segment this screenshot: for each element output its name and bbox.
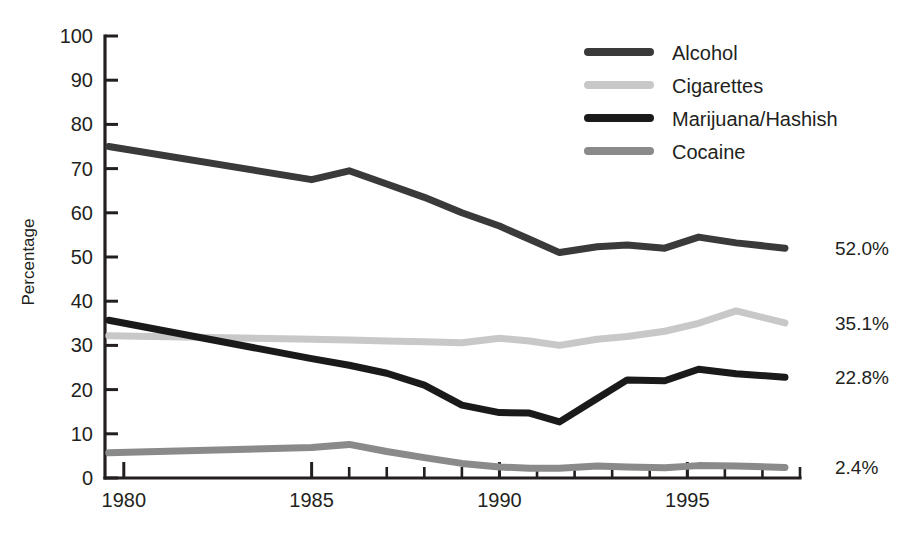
end-value-label: 22.8% (835, 367, 889, 388)
y-tick-label: 30 (71, 334, 93, 356)
end-value-label: 2.4% (835, 457, 878, 478)
legend-label: Marijuana/Hashish (672, 108, 838, 130)
x-tick-label: 1990 (477, 489, 522, 511)
y-tick-label: 40 (71, 290, 93, 312)
y-tick-label: 0 (82, 467, 93, 489)
y-axis-ticks: 0102030405060708090100 (60, 25, 118, 489)
series-lines (109, 147, 785, 469)
series-line-cocaine (109, 444, 785, 468)
y-tick-label: 50 (71, 246, 93, 268)
y-tick-label: 100 (60, 25, 93, 47)
y-axis-title: Percentage (19, 219, 38, 306)
y-tick-label: 70 (71, 158, 93, 180)
legend-label: Cigarettes (672, 75, 763, 97)
end-value-labels: 52.0%35.1%22.8%2.4% (835, 238, 889, 478)
chart-legend: AlcoholCigarettesMarijuana/HashishCocain… (588, 42, 838, 163)
x-tick-label: 1985 (289, 489, 334, 511)
legend-label: Cocaine (672, 141, 745, 163)
end-value-label: 52.0% (835, 238, 889, 259)
chart-canvas: Percentage 0102030405060708090100 198019… (0, 0, 910, 536)
y-tick-label: 90 (71, 69, 93, 91)
x-tick-label: 1980 (102, 489, 147, 511)
legend-label: Alcohol (672, 42, 738, 64)
y-tick-label: 80 (71, 113, 93, 135)
x-tick-label: 1995 (665, 489, 710, 511)
y-tick-label: 20 (71, 379, 93, 401)
y-tick-label: 60 (71, 202, 93, 224)
line-chart: Percentage 0102030405060708090100 198019… (0, 0, 910, 536)
y-tick-label: 10 (71, 423, 93, 445)
end-value-label: 35.1% (835, 313, 889, 334)
